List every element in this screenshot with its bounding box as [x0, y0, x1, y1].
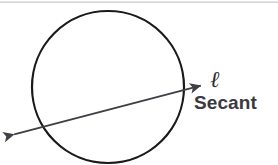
geometry-figure-svg [0, 0, 278, 165]
circle-shape [32, 11, 184, 163]
secant-diagram-canvas: ℓ Secant [0, 0, 278, 165]
